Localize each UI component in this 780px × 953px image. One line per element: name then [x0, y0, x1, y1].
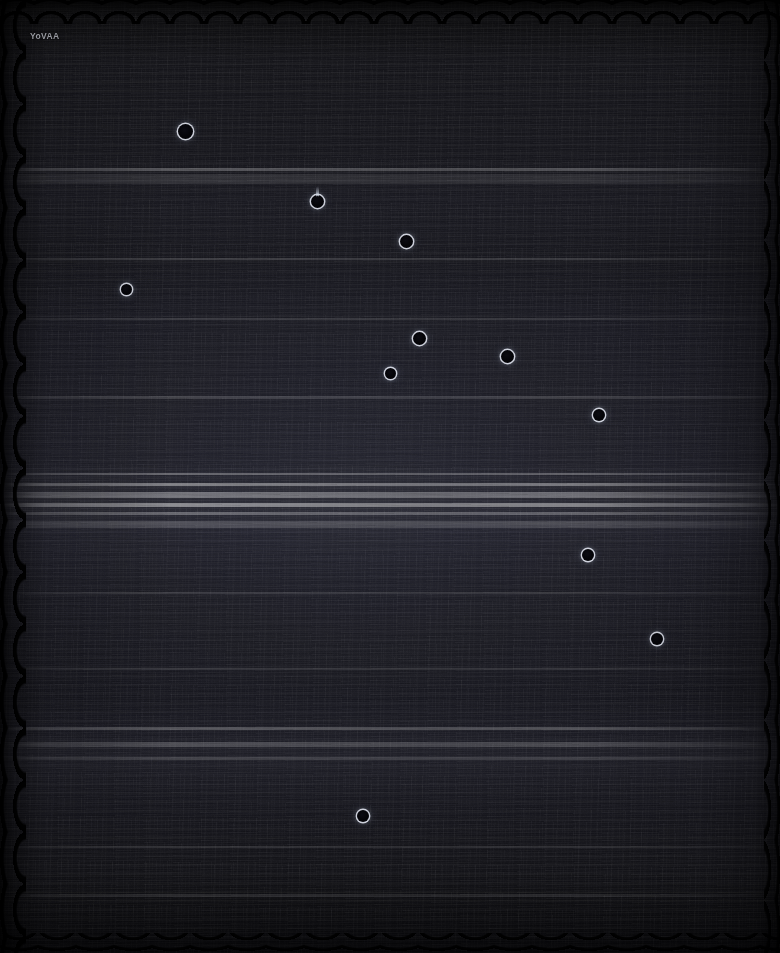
- watermark-label: YoVAA: [30, 31, 60, 41]
- scanline-texture: [0, 0, 780, 953]
- band-upper-faint: [0, 168, 780, 171]
- ring-object-5[interactable]: [413, 332, 426, 345]
- plate-base-tone: [0, 0, 780, 953]
- ring-object-9[interactable]: [582, 549, 594, 561]
- band-core-d: [0, 503, 780, 507]
- band-lower-g: [0, 894, 780, 897]
- ring-object-2-tail: [316, 186, 319, 197]
- ring-object-2[interactable]: [311, 195, 324, 208]
- ring-object-1[interactable]: [178, 124, 193, 139]
- plate-edge-bottom: [0, 933, 780, 953]
- vignette-horizontal: [0, 0, 780, 953]
- plate-haze: [0, 0, 780, 953]
- ring-object-8[interactable]: [593, 409, 605, 421]
- band-core-c: [0, 492, 780, 498]
- scanline-texture-coarse: [0, 0, 780, 953]
- band-lower-f: [0, 846, 780, 848]
- ring-object-6[interactable]: [501, 350, 514, 363]
- ring-object-4[interactable]: [121, 284, 132, 295]
- plate-edge-left: [0, 0, 26, 953]
- band-lower-e: [0, 757, 780, 760]
- band-core-b: [0, 483, 780, 486]
- plate-edge-top: [0, 0, 780, 24]
- band-lower-b: [0, 668, 780, 670]
- scan-plate-canvas[interactable]: YoVAA: [0, 0, 780, 953]
- vignette-vertical: [0, 0, 780, 953]
- ring-object-3[interactable]: [400, 235, 413, 248]
- band-core-e: [0, 512, 780, 515]
- ring-object-11[interactable]: [357, 810, 369, 822]
- band-lower-c: [0, 727, 780, 730]
- band-mid-b: [0, 318, 780, 320]
- band-upper-wide: [0, 174, 780, 184]
- band-lower-a: [0, 592, 780, 594]
- emulsion-grain-fine: [0, 0, 780, 953]
- band-core-f: [0, 521, 780, 528]
- emulsion-grain-medium: [0, 0, 780, 953]
- band-mid-a: [0, 258, 780, 260]
- band-core-a: [0, 473, 780, 475]
- plate-edge-right: [764, 0, 780, 953]
- ring-object-10[interactable]: [651, 633, 663, 645]
- ring-object-7[interactable]: [385, 368, 396, 379]
- band-mid-c: [0, 396, 780, 399]
- band-lower-d: [0, 742, 780, 747]
- emulsion-grain-speckle: [0, 0, 780, 953]
